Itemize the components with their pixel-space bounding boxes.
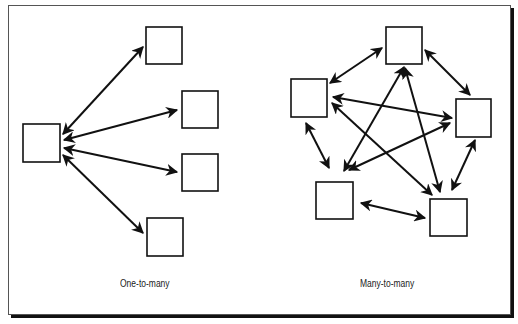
- bidirectional-arrow: [63, 155, 143, 233]
- node-box: [23, 124, 60, 162]
- caption-one-to-many: One-to-many: [120, 278, 170, 289]
- node-box: [147, 218, 183, 256]
- bidirectional-arrow: [63, 47, 143, 134]
- node-box: [182, 91, 218, 128]
- bidirectional-arrow: [333, 97, 452, 118]
- network-diagrams: [0, 0, 518, 324]
- bidirectional-arrow: [452, 140, 475, 190]
- bidirectional-arrow: [425, 50, 470, 95]
- node-box: [146, 27, 182, 64]
- bidirectional-arrow: [349, 123, 450, 170]
- node-box: [316, 182, 353, 219]
- bidirectional-arrow: [361, 203, 425, 218]
- node-box: [291, 79, 327, 117]
- caption-many-to-many: Many-to-many: [360, 278, 414, 289]
- bidirectional-arrow: [64, 148, 177, 172]
- node-box: [182, 154, 218, 191]
- bidirectional-arrow: [330, 48, 382, 83]
- bidirectional-arrow: [344, 67, 404, 171]
- node-box: [430, 199, 467, 236]
- node-box: [456, 99, 491, 137]
- node-box: [386, 27, 422, 64]
- bidirectional-arrow: [306, 123, 329, 168]
- bidirectional-arrow: [332, 103, 432, 195]
